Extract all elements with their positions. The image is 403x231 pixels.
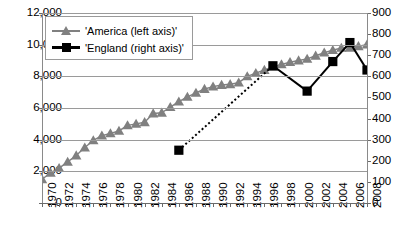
left-axis-tick-mark <box>39 108 42 109</box>
right-axis-tick-mark <box>368 13 371 14</box>
x-axis-tick-mark <box>85 203 86 207</box>
x-axis-tick-mark <box>247 203 248 207</box>
x-axis-tick-mark <box>170 203 171 207</box>
x-axis-tick-mark <box>128 203 129 207</box>
x-axis-tick-mark <box>102 203 103 207</box>
x-axis-tick-mark <box>290 203 291 207</box>
axis-line <box>367 13 368 204</box>
right-axis-tick-label: 800 <box>372 28 391 40</box>
x-axis-tick-mark <box>205 203 206 207</box>
x-axis-tick-mark <box>51 203 52 207</box>
triangle-marker-icon <box>52 25 80 37</box>
x-axis-tick-mark <box>264 203 265 207</box>
x-axis-tick-mark <box>153 203 154 207</box>
left-axis-tick-mark <box>39 171 42 172</box>
data-point-triangle <box>114 126 124 135</box>
x-axis-tick-mark <box>299 203 300 207</box>
gridline <box>42 108 367 109</box>
x-axis-tick-mark <box>187 203 188 207</box>
left-axis-tick-mark <box>39 45 42 46</box>
x-axis-tick-mark <box>273 203 274 207</box>
right-axis-tick-mark <box>368 182 371 183</box>
x-axis-tick-mark <box>59 203 60 207</box>
left-axis-tick-mark <box>39 76 42 77</box>
x-axis-tick-mark <box>110 203 111 207</box>
data-point-square <box>174 146 183 155</box>
x-axis-tick-mark <box>213 203 214 207</box>
x-axis-tick-mark <box>341 203 342 207</box>
right-axis-tick-label: 200 <box>372 155 391 167</box>
right-axis-tick-mark <box>368 140 371 141</box>
data-point-square <box>328 57 337 66</box>
legend-label-england: 'England (right axis)' <box>85 42 184 54</box>
x-axis-tick-mark <box>196 203 197 207</box>
gridline <box>42 140 367 141</box>
right-axis-tick-mark <box>368 161 371 162</box>
gridline <box>42 76 367 77</box>
data-point-triangle <box>234 77 244 86</box>
gridline <box>42 171 367 172</box>
x-axis-tick-mark <box>119 203 120 207</box>
legend-item-england: 'England (right axis)' <box>52 39 186 56</box>
x-axis-tick-mark <box>136 203 137 207</box>
data-point-triangle <box>174 96 184 105</box>
x-axis-tick-mark <box>307 203 308 207</box>
data-point-triangle <box>62 157 72 166</box>
x-axis-tick-mark <box>42 203 43 207</box>
data-point-triangle <box>165 102 175 111</box>
data-point-triangle <box>182 92 192 101</box>
x-axis-tick-mark <box>333 203 334 207</box>
right-axis-tick-label: 500 <box>372 91 391 103</box>
right-axis-tick-label: 700 <box>372 49 391 61</box>
right-axis-tick-mark <box>368 55 371 56</box>
x-axis-tick-mark <box>76 203 77 207</box>
chart-legend: 'America (left axis)' 'England (right ax… <box>45 16 193 60</box>
data-point-square <box>345 38 354 47</box>
legend-item-america: 'America (left axis)' <box>52 22 186 39</box>
right-axis-tick-mark <box>368 34 371 35</box>
legend-label-america: 'America (left axis)' <box>85 25 177 37</box>
right-axis-tick-mark <box>368 97 371 98</box>
x-axis-tick-mark <box>316 203 317 207</box>
left-axis-tick-mark <box>39 140 42 141</box>
right-axis-tick-label: 600 <box>372 70 391 82</box>
x-axis-tick-label: 2008 <box>372 182 384 208</box>
x-axis-tick-mark <box>93 203 94 207</box>
x-axis-tick-mark <box>350 203 351 207</box>
x-axis-tick-mark <box>256 203 257 207</box>
right-axis-tick-mark <box>368 119 371 120</box>
right-axis-tick-label: 400 <box>372 113 391 125</box>
axis-line <box>42 13 43 204</box>
x-axis-tick-mark <box>68 203 69 207</box>
data-point-square <box>268 61 277 70</box>
series-line <box>273 66 307 91</box>
left-axis-tick-mark <box>39 203 42 204</box>
chart-container: 02,0004,0006,0008,00010,00012,000 010020… <box>0 0 403 231</box>
x-axis-tick-mark <box>230 203 231 207</box>
x-axis-tick-mark <box>239 203 240 207</box>
right-axis-tick-mark <box>368 76 371 77</box>
x-axis-tick-mark <box>179 203 180 207</box>
x-axis-tick-mark <box>162 203 163 207</box>
x-axis-tick-mark <box>222 203 223 207</box>
right-axis-tick-mark <box>368 203 371 204</box>
gridline <box>42 13 367 14</box>
right-axis-tick-label: 900 <box>372 7 391 19</box>
right-axis-tick-label: 300 <box>372 134 391 146</box>
x-axis-tick-mark <box>281 203 282 207</box>
left-axis-tick-mark <box>39 13 42 14</box>
x-axis-tick-mark <box>145 203 146 207</box>
x-axis-tick-mark <box>358 203 359 207</box>
data-point-square <box>303 87 312 96</box>
x-axis-tick-mark <box>324 203 325 207</box>
data-point-triangle <box>191 88 201 97</box>
square-marker-icon <box>52 42 80 54</box>
